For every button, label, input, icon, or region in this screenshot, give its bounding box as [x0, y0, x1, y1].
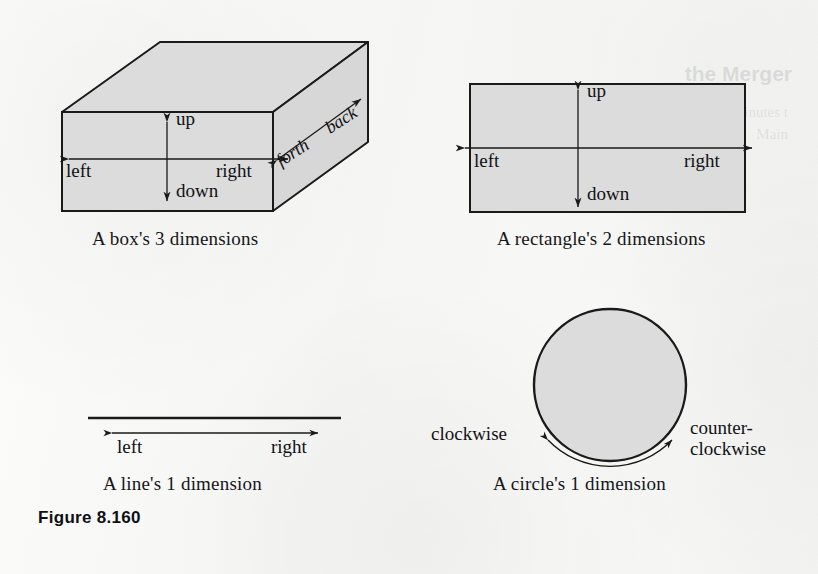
- line-label-right: right: [271, 436, 307, 458]
- box-label-left: left: [66, 160, 91, 182]
- figure-page: the Merger minutes t Main: [0, 0, 818, 574]
- figure-number-label: Figure 8.160: [38, 508, 141, 528]
- panel-line-figure: [88, 418, 341, 433]
- box-label-up: up: [176, 108, 195, 130]
- caption-rectangle: A rectangle's 2 dimensions: [497, 228, 706, 250]
- caption-line: A line's 1 dimension: [103, 473, 262, 495]
- rectangle-label-up: up: [587, 80, 606, 102]
- rectangle-label-down: down: [587, 183, 629, 205]
- box-label-down: down: [176, 180, 218, 202]
- circle-label-counterclockwise: counter- clockwise: [690, 418, 810, 459]
- circle-label-counterclockwise-line-2: clockwise: [690, 438, 766, 459]
- circle-label-counterclockwise-line-1: counter-: [690, 417, 753, 438]
- panel-circle-figure: [534, 309, 686, 466]
- box-label-right: right: [216, 160, 252, 182]
- circle-shape: [534, 309, 686, 461]
- caption-box: A box's 3 dimensions: [92, 228, 258, 250]
- rectangle-label-left: left: [474, 150, 499, 172]
- caption-circle: A circle's 1 dimension: [493, 473, 666, 495]
- line-label-left: left: [117, 436, 142, 458]
- circle-label-clockwise: clockwise: [431, 423, 507, 445]
- rectangle-label-right: right: [684, 150, 720, 172]
